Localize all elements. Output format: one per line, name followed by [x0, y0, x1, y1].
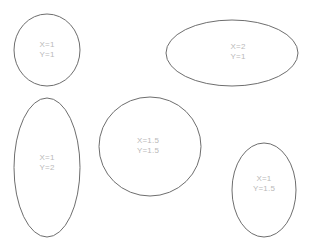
- ellipse-outline-x1-y15[interactable]: [232, 143, 296, 237]
- ellipse-outlines-layer: [0, 0, 310, 247]
- ellipse-outline-x2-y1[interactable]: [166, 20, 298, 86]
- ellipse-outline-x1-y1[interactable]: [14, 14, 80, 86]
- ellipse-outline-x15-y15[interactable]: [99, 97, 201, 196]
- ellipse-diagram-canvas: X=1 Y=1 X=2 Y=1 X=1 Y=2 X=1.5 Y=1.5 X=1 …: [0, 0, 310, 247]
- ellipse-outline-x1-y2[interactable]: [14, 98, 80, 237]
